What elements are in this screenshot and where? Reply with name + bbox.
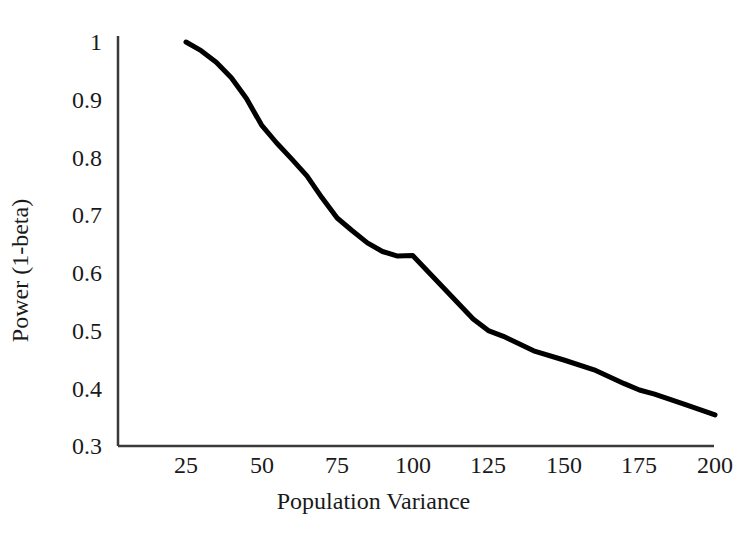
- x-tick-label: 75: [325, 453, 349, 477]
- y-tick-label: 0.4: [40, 377, 102, 401]
- chart-figure: 1 0.9 0.8 0.7 0.6 0.5 0.4 0.3 25 50 75 1…: [0, 0, 747, 541]
- x-tick-label: 25: [174, 453, 198, 477]
- x-tick-label: 150: [546, 453, 582, 477]
- x-tick-label: 175: [621, 453, 657, 477]
- x-tick-label: 100: [395, 453, 431, 477]
- x-tick-label: 50: [250, 453, 274, 477]
- y-tick-label: 1: [40, 30, 102, 54]
- y-axis-title: Power (1-beta): [0, 0, 40, 541]
- y-tick-label: 0.9: [40, 88, 102, 112]
- x-tick-label: 200: [697, 453, 733, 477]
- y-tick-label: 0.7: [40, 203, 102, 227]
- x-axis-title: Population Variance: [0, 489, 747, 513]
- y-tick-label: 0.3: [40, 434, 102, 458]
- x-tick-label: 125: [470, 453, 506, 477]
- y-tick-label: 0.5: [40, 319, 102, 343]
- power-curve-line: [186, 42, 715, 415]
- y-tick-label: 0.6: [40, 261, 102, 285]
- y-tick-label: 0.8: [40, 146, 102, 170]
